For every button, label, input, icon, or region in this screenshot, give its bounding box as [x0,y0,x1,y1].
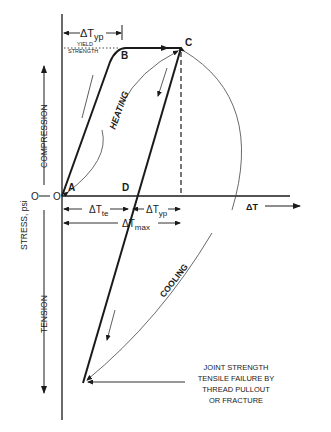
tension-label: TENSION [39,295,49,333]
origin-label: O [53,191,61,202]
stress-axis-label: STRESS, psi [19,200,29,250]
compression-label: COMPRESSION [39,104,49,168]
heating-path [62,48,181,196]
point-c-label: C [185,37,192,48]
y-zero-label: O [31,191,39,202]
failure-annotation: JOINT STRENGTH TENSILE FAILURE BY THREAD… [198,363,275,405]
cooling-direction-arrow-lower [107,310,115,340]
cooling-arc-upper [184,51,242,210]
svg-text:THREAD PULLOUT: THREAD PULLOUT [202,385,270,394]
svg-text:JOINT STRENGTH: JOINT STRENGTH [204,363,269,372]
yield-label-line1: YIELD [77,41,93,47]
dt-yp-mid-label: ΔTyp [146,204,168,218]
point-a-label: A [68,182,75,193]
dt-max-label: ΔTmax [122,218,150,232]
yield-label-line2: STRENGTH [68,48,98,54]
delta-t-axis-label: ΔT [246,202,258,212]
heating-arc-upper [122,51,178,104]
cooling-direction-arrow-upper [158,68,167,96]
stress-temperature-diagram: ΔTyp YIELD STRENGTH B C A D O O HEATING … [0,0,331,432]
dt-te-label: ΔTte [89,204,109,218]
point-b-label: B [121,50,128,61]
cooling-label: COOLING [158,262,191,300]
svg-text:OR FRACTURE: OR FRACTURE [209,396,263,405]
dt-yp-top-label: ΔTyp [80,27,104,42]
heating-label: HEATING [107,90,130,131]
svg-text:TENSILE FAILURE BY: TENSILE FAILURE BY [198,374,275,383]
point-d-label: D [122,182,129,193]
